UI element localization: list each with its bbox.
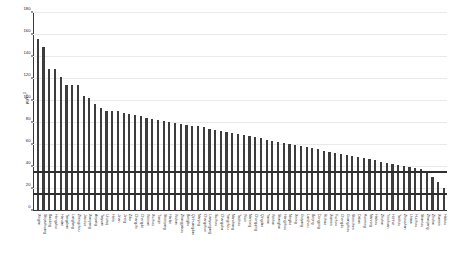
x-tick-label: Wuhan <box>173 214 177 225</box>
x-tick-label: Xingtai <box>36 214 40 225</box>
bar <box>311 148 313 211</box>
y-tick-label: 100 <box>24 94 31 99</box>
x-tick-label: Jining <box>122 214 126 223</box>
plot-area: 020406080100120140160180 <box>33 13 447 211</box>
bar <box>145 118 147 212</box>
bar <box>54 69 56 211</box>
x-tick-label: Bengbu <box>185 214 189 226</box>
y-tick-label: 180 <box>24 6 31 11</box>
bar <box>168 122 170 211</box>
bar <box>403 166 405 211</box>
bar <box>420 169 422 211</box>
bar <box>243 135 245 211</box>
bars-group <box>33 13 447 211</box>
x-tick-label: Yinchuan <box>385 214 389 228</box>
bar <box>294 145 296 211</box>
bar <box>340 154 342 211</box>
bar <box>151 119 153 211</box>
x-tick-label: Chengdu <box>339 214 343 228</box>
bar <box>128 114 130 211</box>
x-tick-label: Wuxi <box>242 214 246 222</box>
bar <box>174 123 176 211</box>
x-label-slot: Haikou <box>441 212 447 270</box>
bar <box>426 171 428 211</box>
bar <box>271 141 273 211</box>
x-tick-label: Jiaozuo <box>82 214 86 226</box>
bar <box>254 137 256 211</box>
reference-line <box>33 193 447 194</box>
x-tick-label: Xianyang <box>88 214 92 229</box>
x-tick-label: Qinhuangdao <box>190 214 194 235</box>
x-tick-label: Weihai <box>271 214 275 225</box>
x-tick-label: Lanzhou <box>305 214 309 227</box>
bar <box>363 158 365 211</box>
bar <box>283 143 285 211</box>
x-tick-label: Beijing <box>311 214 315 225</box>
bar <box>100 108 102 211</box>
x-tick-label: Nanchang <box>231 214 235 230</box>
bar <box>111 111 113 211</box>
x-tick-label: Xining <box>293 214 297 224</box>
x-tick-label: Yantai <box>265 214 269 224</box>
x-tick-label: Guangzhou <box>345 214 349 232</box>
x-tick-label: Lianyungang <box>208 214 212 234</box>
x-tick-label: Baoding <box>48 214 52 227</box>
x-tick-label: Urumqi <box>105 214 109 225</box>
x-tick-label: Shenyang <box>162 214 166 230</box>
x-tick-label: Tianjin <box>156 214 160 224</box>
x-tick-label: Hefei <box>110 214 114 222</box>
bar <box>266 140 268 212</box>
bar-slot <box>441 13 447 211</box>
y-tick-label: 160 <box>24 28 31 33</box>
bar <box>260 138 262 211</box>
x-tick-label: Nanjing <box>196 214 200 226</box>
y-tick-label: 40 <box>26 160 31 165</box>
bar <box>248 136 250 211</box>
bar <box>208 129 210 212</box>
y-tick-label: 60 <box>26 138 31 143</box>
x-tick-label: Shenzhen <box>351 214 355 230</box>
bar <box>48 69 50 211</box>
x-tick-label: Ningbo <box>288 214 292 225</box>
x-tick-label: Xiamen <box>436 214 440 226</box>
x-tick-label: Shanghai <box>276 214 280 229</box>
bar <box>237 134 239 211</box>
bar <box>37 39 39 211</box>
x-tick-label: Zhangjiakou <box>179 214 183 233</box>
bar <box>334 153 336 211</box>
bar <box>386 163 388 211</box>
bar <box>180 124 182 211</box>
x-tick-label: Changsha <box>219 214 223 230</box>
bar <box>71 85 73 212</box>
bar <box>408 167 410 211</box>
bar <box>203 127 205 211</box>
x-tick-label: Haikou <box>442 214 446 225</box>
reference-line <box>33 171 447 172</box>
x-tick-label: Taiyuan <box>99 214 103 226</box>
bar <box>42 47 44 211</box>
x-tick-label: Taizhou <box>396 214 400 226</box>
bar <box>157 120 159 211</box>
bar <box>134 115 136 211</box>
x-tick-label: Handan <box>59 214 63 226</box>
bar <box>351 156 353 211</box>
x-tick-label: Zhanjiang <box>425 214 429 229</box>
bar <box>357 157 359 211</box>
x-tick-label: Zhengzhou <box>76 214 80 232</box>
bar <box>94 104 96 211</box>
x-tick-label: Zhuhai <box>431 214 435 225</box>
y-tick-label: 20 <box>26 182 31 187</box>
x-tick-label: Dongying <box>316 214 320 229</box>
x-tick-label: Dalian <box>356 214 360 224</box>
x-tick-label: Hengshui <box>53 214 57 229</box>
x-tick-label: Kunming <box>362 214 366 228</box>
x-tick-label: Shijiazhuang <box>42 214 46 234</box>
x-axis-labels: XingtaiShijiazhuangBaodingHengshuiHandan… <box>33 212 447 270</box>
y-tick-label: 80 <box>26 116 31 121</box>
x-tick-label: Qingdao <box>259 214 263 227</box>
bar <box>191 126 193 211</box>
x-tick-label: Shantou <box>419 214 423 227</box>
bar <box>328 152 330 211</box>
x-tick-label: Guiyang <box>299 214 303 227</box>
x-tick-label: Nanning <box>368 214 372 227</box>
